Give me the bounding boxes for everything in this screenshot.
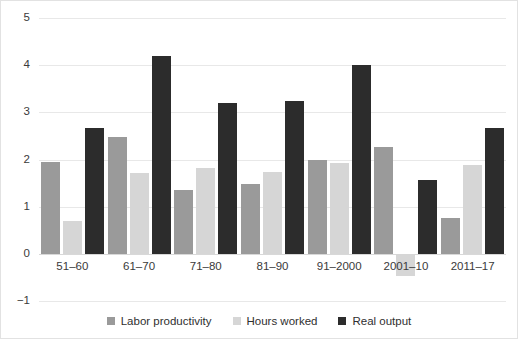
y-axis-tick-label: 2 (24, 154, 30, 166)
bar (418, 180, 437, 254)
bar (263, 172, 282, 254)
legend-item[interactable]: Real output (338, 316, 411, 328)
legend-label: Real output (352, 316, 411, 328)
legend-item[interactable]: Hours worked (233, 316, 318, 328)
x-axis-tick-label: 2011–17 (451, 261, 495, 273)
bar-group: 2001–10 (373, 18, 440, 301)
y-axis-tick-label: 3 (24, 107, 30, 119)
legend-label: Labor productivity (121, 316, 212, 328)
bar (174, 190, 193, 254)
bar (196, 168, 215, 254)
x-axis-tick-label: 71–80 (190, 261, 222, 273)
y-axis-tick-label: 1 (24, 201, 30, 213)
bar-group: 71–80 (172, 18, 239, 301)
bar-group: 91–2000 (306, 18, 373, 301)
y-axis-tick-label: 4 (24, 59, 30, 71)
y-axis-tick-label: −1 (17, 295, 30, 307)
bar (441, 218, 460, 254)
x-axis-tick-label: 91–2000 (317, 261, 362, 273)
bar (152, 56, 171, 254)
legend-label: Hours worked (247, 316, 318, 328)
x-axis-tick-label: 61–70 (123, 261, 155, 273)
bar (218, 103, 237, 254)
bar-groups: 51–6061–7071–8081–9091–20002001–102011–1… (39, 18, 506, 301)
bar (374, 147, 393, 254)
bar-group: 51–60 (39, 18, 106, 301)
legend-swatch-icon (107, 317, 115, 325)
bar (330, 163, 349, 254)
bar (108, 137, 127, 254)
chart-legend: Labor productivityHours workedReal outpu… (1, 316, 517, 328)
bar (485, 128, 504, 254)
gridline: −1 (39, 301, 506, 302)
bar (241, 184, 260, 254)
y-axis-tick-label: 5 (24, 12, 30, 24)
bar (352, 65, 371, 254)
bar-group: 2011–17 (439, 18, 506, 301)
x-axis-tick-label: 51–60 (56, 261, 88, 273)
x-axis-tick-label: 81–90 (256, 261, 288, 273)
legend-item[interactable]: Labor productivity (107, 316, 212, 328)
y-axis-tick-label: 0 (24, 248, 30, 260)
bar (130, 173, 149, 254)
bar (463, 165, 482, 254)
plot-area: 543210−1 51–6061–7071–8081–9091–20002001… (39, 18, 506, 301)
bar-group: 81–90 (239, 18, 306, 301)
bar (285, 101, 304, 254)
legend-swatch-icon (338, 317, 346, 325)
bar (41, 162, 60, 254)
bar (85, 128, 104, 254)
bar-chart: 543210−1 51–6061–7071–8081–9091–20002001… (0, 0, 518, 339)
bar (63, 221, 82, 254)
bar-group: 61–70 (106, 18, 173, 301)
bar (308, 160, 327, 254)
x-axis-tick-label: 2001–10 (384, 261, 429, 273)
legend-swatch-icon (233, 317, 241, 325)
